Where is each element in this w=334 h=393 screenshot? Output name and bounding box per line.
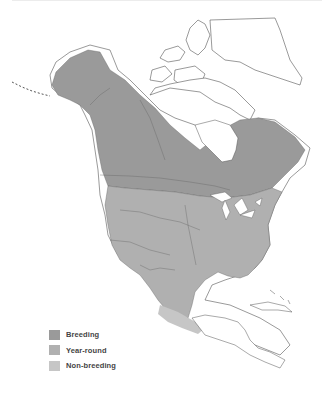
legend-item-non-breeding: Non-breeding [49,358,116,374]
legend-item-breeding: Breeding [49,327,116,343]
year-round-swatch [49,345,60,355]
arctic-islands [150,18,302,120]
non-breeding-swatch [49,361,60,371]
caribbean-islands [250,290,292,312]
legend-label: Non-breeding [66,361,116,370]
map-legend: Breeding Year-round Non-breeding [49,327,116,374]
legend-item-year-round: Year-round [49,343,116,359]
legend-label: Breeding [66,330,99,339]
breeding-swatch [49,330,60,340]
legend-label: Year-round [66,346,107,355]
aleutian-islands [12,82,50,96]
